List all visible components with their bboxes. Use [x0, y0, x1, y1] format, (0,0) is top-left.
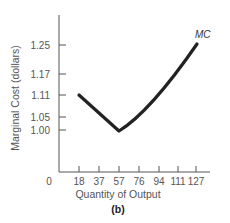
marginal-cost-chart: 1.001.051.111.171.25 1837577694111127 0 …	[0, 0, 230, 223]
x-origin-label: 0	[46, 176, 52, 187]
y-tick-label: 1.05	[31, 112, 51, 123]
x-axis-title: Quantity of Output	[75, 188, 160, 200]
x-tick-label: 111	[170, 176, 186, 187]
x-tick-label: 18	[73, 176, 85, 187]
mc-curve	[79, 44, 197, 131]
y-tick-label: 1.25	[31, 40, 51, 51]
y-tick-label: 1.17	[31, 69, 51, 80]
figure-caption: (b)	[111, 203, 124, 215]
x-tick-label: 57	[113, 176, 125, 187]
y-tick-label: 1.11	[31, 90, 50, 101]
x-tick-label: 37	[93, 176, 105, 187]
x-tick-label: 76	[133, 176, 145, 187]
mc-label: MC	[195, 29, 211, 40]
y-axis-title: Marginal Cost (dollars)	[9, 45, 21, 151]
y-ticks: 1.001.051.111.171.25	[31, 40, 66, 136]
y-tick-label: 1.00	[31, 125, 51, 136]
x-tick-label: 94	[153, 176, 165, 187]
x-ticks: 1837577694111127	[73, 166, 204, 187]
x-tick-label: 127	[188, 176, 205, 187]
